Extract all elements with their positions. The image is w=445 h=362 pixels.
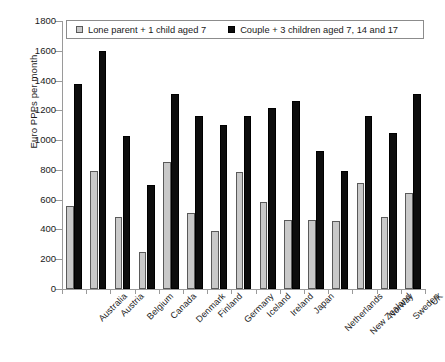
x-axis-label-ireland: Ireland: [288, 291, 315, 318]
bar-couple-belgium: [123, 136, 131, 289]
bar-couple-finland: [195, 116, 203, 289]
bar-couple-sweden: [389, 133, 397, 289]
bar-lone-parent-denmark: [163, 162, 171, 289]
bar-couple-norway: [365, 116, 373, 289]
y-axis-tick: [55, 259, 62, 260]
x-axis-label-belgium: Belgium: [144, 291, 175, 322]
bar-lone-parent-canada: [139, 252, 147, 289]
legend-item-lone-parent: Lone parent + 1 child aged 7: [76, 25, 206, 35]
y-axis-tick: [55, 200, 62, 201]
bar-lone-parent-finland: [187, 213, 195, 289]
y-axis-tick-label: 1400: [16, 76, 56, 86]
x-axis-line: [62, 289, 426, 290]
bar-lone-parent-ireland: [260, 202, 268, 289]
y-axis-tick-label: 1200: [16, 105, 56, 115]
y-axis-tick: [55, 51, 62, 52]
bar-couple-australia: [74, 84, 82, 289]
legend-label-lone-parent: Lone parent + 1 child aged 7: [88, 25, 206, 35]
bar-couple-ireland: [268, 108, 276, 289]
bar-lone-parent-australia: [66, 206, 74, 289]
x-axis-tick: [425, 289, 426, 294]
bar-lone-parent-germany: [211, 231, 219, 289]
bar-lone-parent-belgium: [115, 217, 123, 289]
y-axis-tick: [55, 140, 62, 141]
bar-lone-parent-new-zealand: [332, 221, 340, 289]
y-axis-tick-label: 400: [16, 224, 56, 234]
y-axis-tick: [55, 110, 62, 111]
bar-lone-parent-austria: [90, 171, 98, 289]
bar-couple-canada: [147, 185, 155, 289]
y-axis-tick-label: 1000: [16, 135, 56, 145]
x-axis-labels: AustraliaAustriaBelgiumCanadaDenmarkFinl…: [62, 291, 425, 361]
y-axis-tick-label: 0: [16, 284, 56, 294]
bar-lone-parent-iceland: [236, 172, 244, 289]
y-axis-tick-label: 1600: [16, 46, 56, 56]
bar-couple-uk: [413, 94, 421, 289]
y-axis-tick-label: 600: [16, 195, 56, 205]
bar-couple-denmark: [171, 94, 179, 289]
plot-area: 020040060080010001200140016001800: [62, 21, 425, 289]
legend-swatch-lone-parent: [76, 26, 83, 33]
y-axis-tick: [55, 170, 62, 171]
y-axis-tick: [55, 21, 62, 22]
bar-lone-parent-netherlands: [308, 220, 316, 289]
bar-lone-parent-japan: [284, 220, 292, 289]
y-axis-tick-label: 200: [16, 254, 56, 264]
legend-item-couple: Couple + 3 children aged 7, 14 and 17: [228, 25, 398, 35]
bar-lone-parent-sweden: [381, 217, 389, 289]
y-axis-tick-label: 800: [16, 165, 56, 175]
bar-couple-austria: [99, 51, 107, 289]
bar-couple-netherlands: [316, 151, 324, 289]
y-axis-line: [62, 21, 63, 290]
bar-couple-new-zealand: [341, 171, 349, 289]
bar-couple-germany: [220, 125, 228, 289]
chart-legend: Lone parent + 1 child aged 7 Couple + 3 …: [66, 20, 424, 39]
legend-swatch-couple: [228, 26, 235, 33]
bar-couple-japan: [292, 101, 300, 289]
bar-couple-iceland: [244, 116, 252, 289]
y-axis-tick-label: 1800: [16, 16, 56, 26]
bar-lone-parent-uk: [405, 193, 413, 289]
x-axis-label-japan: Japan: [311, 291, 336, 316]
bar-lone-parent-norway: [357, 183, 365, 289]
legend-label-couple: Couple + 3 children aged 7, 14 and 17: [240, 25, 398, 35]
y-axis-tick: [55, 229, 62, 230]
y-axis-tick: [55, 289, 62, 290]
y-axis-tick: [55, 81, 62, 82]
